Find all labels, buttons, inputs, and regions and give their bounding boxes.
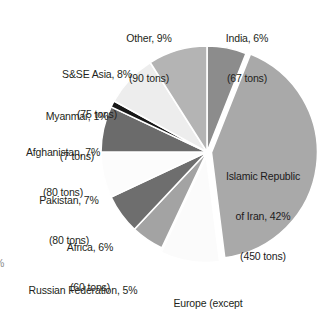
- slice-label-iran-line1: Islamic Republic: [214, 170, 312, 183]
- slice-label-iran-line2: of Iran, 42%: [214, 210, 312, 223]
- slice-label-europe-line1: Europe (except: [146, 297, 270, 310]
- clipped-label-fragment-text: %: [0, 257, 5, 270]
- slice-label-russian-federation: Russian Federation, 5% (58 tons): [12, 258, 154, 315]
- slice-label-iran-line3: (450 tons): [214, 250, 312, 263]
- slice-label-iran: Islamic Republic of Iran, 42% (450 tons): [214, 144, 312, 289]
- slice-label-india-line1: India, 6%: [205, 32, 289, 45]
- slice-label-africa-line1: Africa, 6%: [42, 241, 138, 254]
- pie-chart-figure: Other, 9% (90 tons) India, 6% (67 tons) …: [0, 0, 317, 315]
- slice-label-russia-line1: Russian Federation, 5%: [12, 284, 154, 297]
- slice-label-pakistan-line1: Pakistan, 7%: [15, 194, 123, 207]
- slice-label-ssea-line1: S&SE Asia, 8%: [42, 68, 152, 81]
- slice-label-india: India, 6% (67 tons): [205, 6, 289, 112]
- slice-label-afghanistan-line1: Afghanistan, 7%: [3, 146, 123, 159]
- slice-label-india-line2: (67 tons): [205, 72, 289, 85]
- clipped-label-fragment: %: [0, 231, 5, 297]
